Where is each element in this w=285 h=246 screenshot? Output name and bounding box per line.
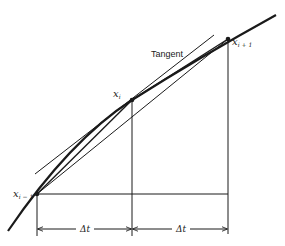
diagram-canvas: Tangent xi − 1 xi xi + 1 Δt Δt	[0, 0, 285, 246]
delta-t-left-label: Δt	[79, 224, 90, 234]
function-curve	[8, 15, 276, 231]
delta-t-right-label: Δt	[175, 224, 186, 234]
point-x-curr	[130, 98, 135, 103]
chord-prev-curr	[37, 100, 132, 194]
point-x-next	[226, 37, 231, 42]
label-x-next: xi + 1	[232, 36, 252, 48]
tangent-line	[35, 35, 214, 174]
label-x-curr: xi	[113, 88, 121, 100]
tangent-label: Tangent	[151, 49, 184, 59]
point-x-prev	[35, 192, 40, 197]
label-x-prev: xi − 1	[13, 188, 33, 200]
